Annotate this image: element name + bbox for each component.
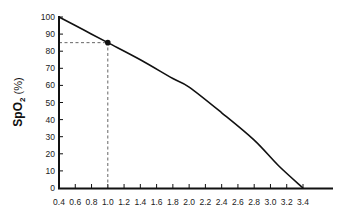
spo2-chart: 0102030405060708090100 0.40.60.81.01.21.…: [0, 0, 348, 220]
y-tick-label: 60: [46, 80, 56, 90]
x-tick-label: 2.4: [216, 197, 228, 207]
y-tick-label: 80: [46, 46, 56, 56]
x-tick-label: 1.6: [151, 197, 163, 207]
y-tick-label: 40: [46, 115, 56, 125]
highlighted-point: [105, 40, 111, 46]
reference-lines: [59, 43, 108, 188]
x-tick-label: 1.8: [167, 197, 179, 207]
spo2-curve: [59, 17, 303, 188]
y-tick-label: 70: [46, 63, 56, 73]
x-tick-label: 1.4: [134, 197, 146, 207]
x-tick-label: 2.6: [232, 197, 244, 207]
y-tick-label: 10: [46, 166, 56, 176]
y-tick-label: 90: [46, 29, 56, 39]
y-tick-label: 0: [50, 183, 55, 193]
x-tick-label: 1.0: [102, 197, 114, 207]
x-tick-label: 0.8: [86, 197, 98, 207]
y-tick-label: 100: [41, 12, 55, 22]
x-tick-label: 3.2: [281, 197, 293, 207]
x-tick-label: 2.8: [248, 197, 260, 207]
x-tick-label: 3.4: [297, 197, 309, 207]
x-tick-label: 0.4: [53, 197, 65, 207]
y-axis-title: SpO2 (%): [11, 77, 27, 126]
x-tick-label: 1.2: [118, 197, 130, 207]
x-tick-label: 3.0: [265, 197, 277, 207]
y-tick-label: 50: [46, 98, 56, 108]
x-tick-label: 2.0: [183, 197, 195, 207]
x-axis-ticks: 0.40.60.81.01.21.41.61.82.02.22.42.62.83…: [53, 184, 309, 207]
x-tick-label: 0.6: [69, 197, 81, 207]
y-tick-label: 30: [46, 132, 56, 142]
x-tick-label: 2.2: [199, 197, 211, 207]
y-tick-label: 20: [46, 149, 56, 159]
